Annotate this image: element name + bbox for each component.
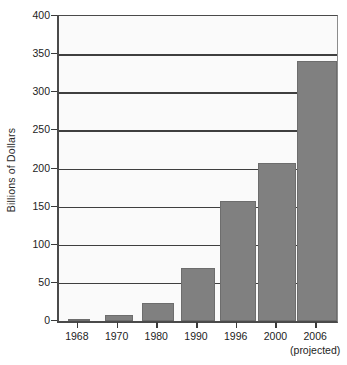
y-axis-tick-mark [51,206,57,207]
x-axis-tick-marks [57,322,337,330]
x-axis-tick-mark [236,322,238,328]
bars-layer [59,16,337,321]
x-axis-tick-label: 2006 [303,330,326,342]
bar[interactable] [258,163,296,321]
x-axis-tick-mark [77,322,79,328]
bar[interactable] [297,61,337,321]
x-axis-tick-mark [275,322,277,328]
y-axis-tick-label: 50 [38,276,50,288]
y-axis-title-text: Billions of Dollars [5,128,17,212]
bar-chart: Billions of Dollars 05010015020025030035… [0,0,347,365]
x-axis-tick-label: 1980 [145,330,168,342]
x-axis-tick-mark [315,322,317,328]
bar[interactable] [220,201,256,321]
bar[interactable] [105,315,133,321]
y-axis-tick-label: 350 [32,47,50,59]
x-axis-tick-label: 1990 [184,330,207,342]
x-axis-tick-mark [156,322,158,328]
x-axis-tick-sublabel: (projected) [290,344,340,356]
y-axis-tick-mark [51,129,57,130]
x-axis-tick-label: 2000 [264,330,287,342]
bar[interactable] [68,319,90,322]
x-axis-tick-label: 1970 [105,330,128,342]
bar[interactable] [181,268,215,321]
x-axis-tick-labels: 1968197019801990199620002006(projected) [57,330,337,364]
bar[interactable] [142,303,174,321]
y-axis-tick-mark [51,282,57,283]
x-axis-tick-label: 1968 [65,330,88,342]
y-axis-tick-label: 0 [44,314,50,326]
y-axis-tick-label: 200 [32,162,50,174]
x-axis-tick-mark [117,322,119,328]
y-axis-tick-mark [51,168,57,169]
y-axis-tick-mark [51,244,57,245]
y-axis-tick-label: 300 [32,85,50,97]
y-axis-tick-mark [51,91,57,92]
y-axis-tick-label: 150 [32,200,50,212]
x-axis-tick-label: 1996 [224,330,247,342]
y-axis-tick-mark [51,320,57,321]
y-axis-tick-mark [51,53,57,54]
x-axis-tick-mark [196,322,198,328]
y-axis-title: Billions of Dollars [0,0,22,340]
y-axis-tick-labels: 050100150200250300350400 [22,0,50,365]
plot-area [57,15,338,323]
y-axis-tick-label: 250 [32,123,50,135]
y-axis-tick-label: 100 [32,238,50,250]
y-axis-tick-mark [51,15,57,16]
y-axis-tick-label: 400 [32,9,50,21]
